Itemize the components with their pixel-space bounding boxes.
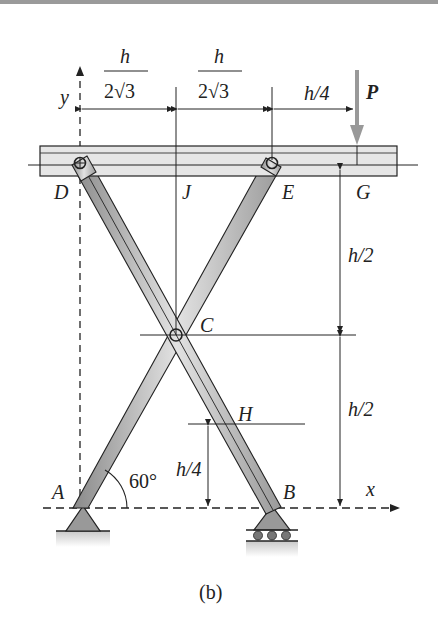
pin-support-a — [56, 506, 110, 547]
y-axis-label: y — [58, 86, 69, 109]
dim-je-numerator: h — [214, 45, 224, 67]
point-b-label: B — [283, 481, 295, 503]
point-j-label: J — [182, 181, 192, 203]
dim-h-height: h/4 — [176, 458, 202, 480]
load-arrow-p — [350, 70, 364, 145]
vertical-dimensions — [208, 170, 340, 506]
dim-je-denominator: 2√3 — [198, 80, 229, 102]
point-e-label: E — [281, 181, 294, 203]
figure-caption: (b) — [199, 581, 222, 604]
dim-eg: h/4 — [304, 82, 330, 104]
point-h-label: H — [237, 403, 254, 425]
x-axis — [43, 504, 400, 512]
point-a-label: A — [50, 481, 65, 503]
x-axis-label: x — [365, 478, 375, 500]
dim-dj-numerator: h — [120, 45, 130, 67]
dim-upper-half: h/2 — [348, 244, 374, 266]
point-g-label: G — [356, 181, 371, 203]
load-label: P — [365, 81, 379, 103]
scissor-frame-diagram: h 2√3 h 2√3 h/4 P y D J E G h/2 C h/2 H … — [0, 0, 438, 632]
point-c-label: C — [200, 314, 214, 336]
angle-arc — [105, 470, 127, 508]
dim-dj-denominator: 2√3 — [104, 80, 135, 102]
dim-lower-half: h/2 — [348, 398, 374, 420]
roller-support-b — [246, 506, 298, 557]
y-axis — [76, 66, 84, 508]
point-d-label: D — [53, 181, 69, 203]
angle-label: 60° — [129, 470, 157, 492]
